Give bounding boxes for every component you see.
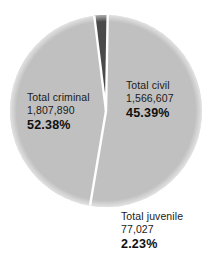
slice-label-value: 1,807,890 [27, 105, 90, 117]
slice-label-percent: 45.39% [126, 106, 174, 120]
slice-label-name: Total juvenile [121, 211, 183, 223]
slice-label-name: Total civil [126, 80, 174, 92]
slice-label-value: 77,027 [121, 224, 183, 236]
slice-label-percent: 2.23% [121, 237, 183, 251]
slice-label-total-juvenile: Total juvenile 77,027 2.23% [121, 211, 183, 251]
slice-label-value: 1,566,607 [126, 93, 174, 105]
slice-label-name: Total criminal [27, 92, 90, 104]
slice-label-percent: 52.38% [27, 118, 90, 132]
slice-label-total-civil: Total civil 1,566,607 45.39% [126, 80, 174, 120]
slice-label-total-criminal: Total criminal 1,807,890 52.38% [27, 92, 90, 132]
pie-chart: Total criminal 1,807,890 52.38% Total ci… [0, 0, 213, 261]
